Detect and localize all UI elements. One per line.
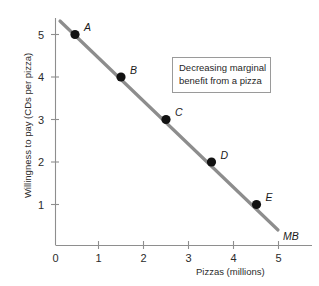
- x-tick-label-3: 3: [185, 252, 191, 264]
- data-point-label-e: E: [266, 191, 274, 203]
- data-point-label-d: D: [221, 149, 229, 161]
- x-tick-label-0: 0: [52, 252, 58, 264]
- data-point-label-a: A: [83, 21, 91, 33]
- y-tick-label-2: 2: [38, 156, 44, 168]
- data-point-label-b: B: [130, 64, 137, 76]
- data-point-e: [252, 200, 261, 209]
- y-tick-label-3: 3: [38, 114, 44, 126]
- marginal-benefit-curve: [60, 21, 278, 230]
- marginal-benefit-chart: 5 4 3 2 1 0 1 2 3 4 5 A B C D E MB Willi…: [0, 0, 319, 286]
- data-point-d: [207, 157, 216, 166]
- curve-label-mb: MB: [283, 230, 299, 242]
- data-point-label-c: C: [175, 106, 183, 118]
- x-tick-label-4: 4: [230, 252, 236, 264]
- x-tick-label-2: 2: [140, 252, 146, 264]
- x-axis-title: Pizzas (millions): [196, 266, 265, 277]
- x-tick-label-1: 1: [95, 252, 101, 264]
- x-tick-label-5: 5: [275, 252, 281, 264]
- data-point-c: [161, 115, 170, 124]
- y-tick-label-5: 5: [38, 29, 44, 41]
- annotation-box: Decreasing marginal benefit from a pizza: [172, 57, 271, 93]
- annotation-line-2: benefit from a pizza: [179, 75, 265, 88]
- chart-plot-area: 5 4 3 2 1 0 1 2 3 4 5 A B C D E MB: [0, 0, 319, 286]
- data-point-b: [116, 72, 125, 81]
- data-point-a: [70, 30, 79, 39]
- y-tick-label-1: 1: [38, 199, 44, 211]
- y-axis-title: Willingness to pay (CDs per pizza): [22, 51, 33, 201]
- annotation-line-1: Decreasing marginal: [179, 62, 265, 75]
- y-tick-label-4: 4: [38, 71, 44, 83]
